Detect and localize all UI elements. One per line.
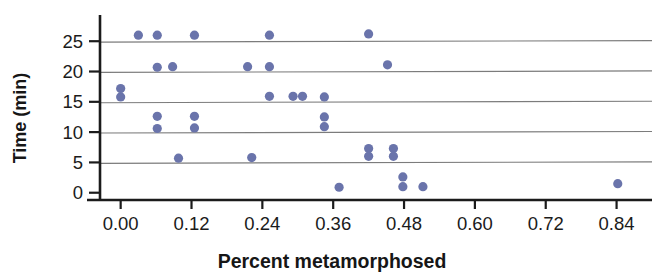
y-axis-tick-labels-group: 0510152025 — [62, 31, 83, 204]
gridlines-group — [100, 41, 652, 164]
data-point — [613, 179, 622, 188]
gridline — [100, 101, 652, 103]
data-point — [190, 31, 199, 40]
x-axis-tick-label: 0.00 — [103, 213, 139, 234]
plot-canvas: 0.000.120.240.360.480.600.720.84 0510152… — [0, 0, 664, 277]
data-point — [265, 31, 274, 40]
data-point — [134, 31, 143, 40]
x-axis-tick-label: 0.84 — [599, 213, 635, 234]
x-axis-title: Percent metamorphosed — [218, 250, 447, 272]
y-axis-tick-label: 0 — [73, 182, 83, 203]
data-point — [389, 152, 398, 161]
data-point — [174, 154, 183, 163]
x-axis-ticks-group — [121, 200, 617, 209]
data-point — [398, 172, 407, 181]
data-point — [383, 60, 392, 69]
gridline — [100, 71, 652, 73]
data-point — [364, 144, 373, 153]
data-point — [153, 112, 162, 121]
data-point — [243, 62, 252, 71]
data-point — [364, 29, 373, 38]
data-point — [298, 92, 307, 101]
data-point — [320, 112, 329, 121]
y-axis-tick-label: 15 — [62, 91, 83, 112]
gridline — [100, 162, 652, 164]
x-axis-tick-label: 0.36 — [315, 213, 351, 234]
x-axis-tick-label: 0.48 — [386, 213, 422, 234]
data-point — [168, 62, 177, 71]
data-point — [153, 124, 162, 133]
data-point — [116, 92, 125, 101]
data-point — [247, 153, 256, 162]
data-points-group — [116, 29, 622, 192]
data-point — [265, 62, 274, 71]
y-axis-tick-label: 20 — [62, 61, 83, 82]
data-point — [116, 84, 125, 93]
data-point — [398, 182, 407, 191]
y-axis-tick-label: 10 — [62, 122, 83, 143]
y-axis-title: Time (min) — [10, 73, 30, 164]
y-axis-tick-label: 5 — [73, 152, 83, 173]
data-point — [153, 31, 162, 40]
y-axis-ticks-group — [89, 41, 100, 193]
x-axis-tick-label: 0.24 — [244, 213, 280, 234]
y-axis-tick-label: 25 — [62, 31, 83, 52]
data-point — [288, 92, 297, 101]
data-point — [418, 182, 427, 191]
x-axis-tick-label: 0.12 — [174, 213, 210, 234]
data-point — [320, 92, 329, 101]
gridline — [100, 41, 652, 43]
data-point — [190, 112, 199, 121]
gridline — [100, 132, 652, 134]
data-point — [190, 123, 199, 132]
x-axis-tick-label: 0.72 — [528, 213, 564, 234]
data-point — [153, 63, 162, 72]
data-point — [265, 92, 274, 101]
data-point — [335, 183, 344, 192]
data-point — [389, 144, 398, 153]
data-point — [364, 152, 373, 161]
data-point — [320, 122, 329, 131]
x-axis-tick-label: 0.60 — [457, 213, 493, 234]
x-axis-tick-labels-group: 0.000.120.240.360.480.600.720.84 — [103, 213, 635, 234]
scatter-plot-figure: 0.000.120.240.360.480.600.720.84 0510152… — [0, 0, 664, 277]
